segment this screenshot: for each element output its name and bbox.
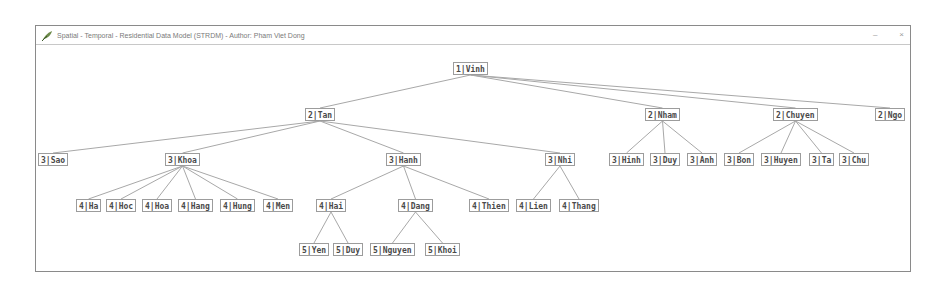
tree-node-hang[interactable]: 4|Hang [178, 199, 213, 212]
tree-node-nham[interactable]: 2|Nham [645, 108, 680, 121]
tree-node-chu[interactable]: 3|Chu [839, 153, 869, 166]
tree-node-bon[interactable]: 3|Bon [724, 153, 754, 166]
tree-node-anh[interactable]: 3|Anh [687, 153, 717, 166]
tree-node-hoa[interactable]: 4|Hoa [142, 199, 172, 212]
feather-icon [40, 28, 54, 42]
tree-node-khoi[interactable]: 5|Khoi [425, 243, 460, 256]
tree-node-sao[interactable]: 3|Sao [38, 153, 68, 166]
tree-node-ta[interactable]: 3|Ta [809, 153, 834, 166]
tree-node-tan[interactable]: 2|Tan [305, 108, 335, 121]
tree-node-thang[interactable]: 4|Thang [559, 199, 599, 212]
tree-node-ha[interactable]: 4|Ha [76, 199, 101, 212]
tree-node-khoa[interactable]: 3|Khoa [165, 153, 200, 166]
tree-node-duy5[interactable]: 5|Duy [333, 243, 363, 256]
tree-node-yen[interactable]: 5|Yen [299, 243, 329, 256]
tree-node-vinh[interactable]: 1|Vinh [453, 62, 488, 75]
tree-node-hai[interactable]: 4|Hai [316, 199, 346, 212]
tree-node-lien[interactable]: 4|Lien [516, 199, 551, 212]
tree-node-chuyen[interactable]: 2|Chuyen [773, 108, 818, 121]
tree-node-hanh[interactable]: 3|Hanh [386, 153, 421, 166]
tree-node-hinh[interactable]: 3|Hinh [609, 153, 644, 166]
tree-node-hoc[interactable]: 4|Hoc [106, 199, 136, 212]
tree-node-nhi[interactable]: 3|Nhi [545, 153, 575, 166]
tree-node-nguyen[interactable]: 5|Nguyen [370, 243, 415, 256]
window-title: Spatial - Temporal - Residential Data Mo… [57, 32, 305, 39]
tree-node-huyen[interactable]: 3|Huyen [761, 153, 801, 166]
tree-node-dang[interactable]: 4|Dang [398, 199, 433, 212]
tree-node-hung[interactable]: 4|Hung [220, 199, 255, 212]
tree-node-thien[interactable]: 4|Thien [469, 199, 509, 212]
tree-node-men[interactable]: 4|Men [263, 199, 293, 212]
title-bar[interactable]: Spatial - Temporal - Residential Data Mo… [36, 26, 910, 45]
tree-node-ngo[interactable]: 2|Ngo [875, 108, 905, 121]
minimize-button[interactable]: – [873, 28, 877, 42]
close-button[interactable]: × [899, 28, 904, 42]
tree-node-duy3[interactable]: 3|Duy [650, 153, 680, 166]
